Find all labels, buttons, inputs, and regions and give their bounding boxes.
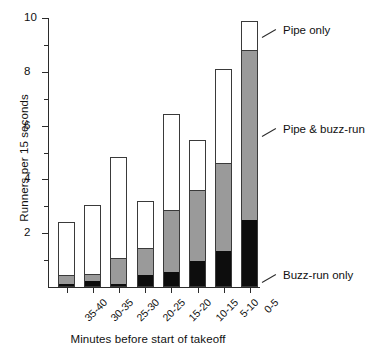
x-tick-label-35-40: 35-40 (81, 296, 108, 323)
legend-label-pipe_and_buzz: Pipe & buzz-run (283, 123, 365, 135)
y-tick-3 (44, 206, 48, 207)
x-tick-5-10 (224, 288, 225, 293)
y-tick-2 (42, 233, 48, 234)
x-tick-15-20 (171, 288, 172, 293)
segment-buzz-run-only (242, 220, 257, 286)
x-tick-30-35 (93, 288, 94, 293)
segment-buzz-run-only (59, 284, 74, 286)
x-tick-10-15 (198, 288, 199, 293)
y-tick-label-6: 6 (24, 120, 36, 132)
segment-pipe-only (59, 223, 74, 275)
plot-area: 108642 35-4030-3525-3020-2515-2010-155-1… (48, 18, 260, 288)
segment-pipe-only (164, 115, 179, 211)
segment-pipe-only (138, 202, 153, 248)
y-tick-label-10: 10 (24, 12, 36, 24)
bar-30-35[interactable] (84, 205, 101, 287)
y-tick-1 (44, 260, 48, 261)
x-tick-label-5-10: 5-10 (237, 296, 260, 319)
bar-35-40[interactable] (58, 222, 75, 287)
x-tick-0-5 (250, 288, 251, 293)
bar-20-25[interactable] (137, 201, 154, 287)
segment-buzz-run-only (164, 272, 179, 286)
x-tick-35-40 (67, 288, 68, 293)
y-tick-9 (44, 45, 48, 46)
x-tick-label-30-35: 30-35 (108, 296, 135, 323)
bar-10-15[interactable] (189, 140, 206, 287)
y-tick-6 (42, 126, 48, 127)
x-tick-label-20-25: 20-25 (160, 296, 187, 323)
y-tick-label-2: 2 (24, 227, 36, 239)
legend-label-pipe_only: Pipe only (283, 24, 330, 36)
segment-pipe-only (216, 70, 231, 162)
bar-15-20[interactable] (163, 114, 180, 288)
legend-leader-line-buzz_run_only (262, 274, 276, 283)
x-tick-25-30 (119, 288, 120, 293)
segment-pipe-and-buzz-run (138, 248, 153, 275)
segment-pipe-and-buzz-run (85, 274, 100, 281)
y-tick-5 (44, 153, 48, 154)
segment-pipe-and-buzz-run (111, 258, 126, 284)
segment-pipe-only (111, 158, 126, 258)
legend-label-buzz_run_only: Buzz-run only (283, 269, 353, 281)
segment-pipe-and-buzz-run (164, 210, 179, 271)
segment-buzz-run-only (216, 251, 231, 286)
legend-leader-line-pipe_only (262, 29, 276, 38)
y-axis-line (48, 18, 49, 288)
y-tick-label-4: 4 (24, 174, 36, 186)
x-axis-title: Minutes before start of takeoff (36, 333, 260, 345)
x-axis-line (48, 287, 260, 288)
segment-pipe-only (242, 22, 257, 50)
bar-25-30[interactable] (110, 157, 127, 287)
y-tick-7 (44, 99, 48, 100)
x-tick-label-0-5: 0-5 (261, 296, 280, 315)
bar-0-5[interactable] (241, 21, 258, 287)
segment-pipe-and-buzz-run (242, 50, 257, 221)
segment-buzz-run-only (85, 281, 100, 286)
segment-buzz-run-only (190, 261, 205, 286)
segment-pipe-and-buzz-run (59, 275, 74, 284)
segment-pipe-and-buzz-run (190, 190, 205, 262)
y-tick-8 (42, 72, 48, 73)
x-tick-label-10-15: 10-15 (212, 296, 239, 323)
y-tick-4 (42, 179, 48, 180)
legend-leader-line-pipe_and_buzz (262, 128, 276, 137)
segment-buzz-run-only (111, 284, 126, 286)
x-tick-label-15-20: 15-20 (186, 296, 213, 323)
x-tick-label-25-30: 25-30 (134, 296, 161, 323)
y-tick-10 (42, 18, 48, 19)
y-tick-label-8: 8 (24, 66, 36, 78)
segment-buzz-run-only (138, 275, 153, 286)
bar-5-10[interactable] (215, 69, 232, 287)
x-tick-20-25 (145, 288, 146, 293)
segment-pipe-only (190, 141, 205, 189)
segment-pipe-only (85, 206, 100, 274)
segment-pipe-and-buzz-run (216, 163, 231, 251)
